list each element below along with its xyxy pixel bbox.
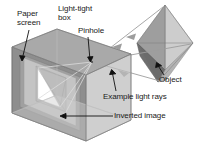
label-paper-screen: Paper screen [17,9,40,27]
label-inverted-image: Inverted image [114,111,166,120]
label-example-light-rays: Example light rays [103,92,167,101]
pinhole-camera-figure: Paper screen Light-tight box Pinhole Obj… [0,0,198,161]
label-object: Object [159,75,182,84]
label-pinhole: Pinhole [78,26,104,35]
object-octahedron [137,5,193,82]
label-light-tight-box: Light-tight box [58,4,92,22]
